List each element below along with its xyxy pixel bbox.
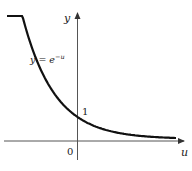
equation-base: y = e <box>29 54 55 65</box>
equation-exponent: −u <box>55 53 65 61</box>
x-axis-label: u <box>181 146 188 159</box>
origin-label: 0 <box>67 146 73 157</box>
equation-label: y = e−u <box>29 53 65 65</box>
intercept-label: 1 <box>82 106 88 117</box>
y-axis-label: y <box>63 12 71 25</box>
exp-curve <box>7 16 176 138</box>
exponential-decay-chart: y u 0 1 y = e−u <box>0 0 192 171</box>
